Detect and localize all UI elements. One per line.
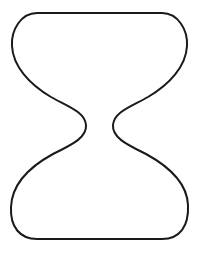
hourglass-outline: [11, 13, 188, 239]
diagram-canvas: [0, 0, 200, 254]
hourglass-figure: [0, 0, 200, 254]
